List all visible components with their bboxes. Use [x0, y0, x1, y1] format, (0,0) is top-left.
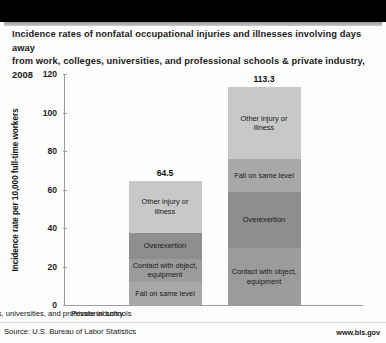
top-black-band [0, 0, 386, 22]
bar-segment-label: Other injury or illness [129, 197, 202, 216]
y-axis-tick-label: 100 [43, 108, 57, 118]
plot-area: 020406080100120Fall on same levelContact… [64, 74, 363, 305]
x-axis-category-label: Private industry [71, 309, 123, 318]
chart-screenshot: Incidence rates of nonfatal occupational… [0, 0, 386, 343]
bar-segment-label: Contact with object, equipment [228, 267, 301, 286]
bar-total-label: 64.5 [129, 168, 202, 178]
bar-segment-label: Overexertion [240, 215, 288, 224]
bar-segment-label: Other injury or illness [228, 114, 301, 133]
y-axis-tick [63, 190, 67, 191]
y-axis-tick [63, 267, 67, 268]
x-axis-line [64, 305, 363, 306]
stacked-bar[interactable]: Fall on same levelContact with object, e… [129, 181, 202, 305]
bar-segment[interactable]: Other injury or illness [228, 87, 301, 159]
bar-segment-label: Fall on same level [231, 171, 297, 180]
y-axis-tick-label: 120 [43, 69, 57, 79]
stacked-bar[interactable]: Contact with object, equipmentOverexerti… [228, 87, 301, 305]
bar-total-label: 113.3 [228, 74, 301, 84]
y-axis-tick [63, 113, 67, 114]
y-axis-tick-label: 60 [47, 185, 57, 195]
y-axis-tick [63, 151, 67, 152]
y-axis-tick-label: 20 [47, 262, 57, 272]
y-axis-tick [63, 74, 67, 75]
chart-title-line-1: Incidence rates of nonfatal occupational… [12, 28, 376, 55]
y-axis-tick [63, 305, 67, 306]
source-note: Source: U.S. Bureau of Labor Statistics [4, 327, 136, 336]
bar-segment[interactable]: Fall on same level [228, 159, 301, 192]
y-axis-tick [63, 228, 67, 229]
footer-divider [0, 322, 386, 323]
bar-segment-label: Fall on same level [132, 289, 198, 298]
y-axis-tick-label: 40 [47, 223, 57, 233]
y-axis-title-text: Incidence rate per 10,000 full-time work… [10, 108, 20, 271]
bar-segment[interactable]: Overexertion [129, 233, 202, 259]
bar-segment[interactable]: Overexertion [228, 192, 301, 248]
bar-segment[interactable]: Other injury or illness [129, 181, 202, 233]
bar-segment[interactable]: Contact with object, equipment [129, 259, 202, 282]
bar-segment-label: Overexertion [141, 241, 189, 250]
bar-segment[interactable]: Contact with object, equipment [228, 248, 301, 305]
bar-segment-label: Contact with object, equipment [129, 261, 202, 280]
source-url: www.bls.gov [336, 328, 380, 337]
bar-segment[interactable]: Fall on same level [129, 282, 202, 305]
y-axis-title: Incidence rate per 10,000 full-time work… [8, 74, 22, 305]
y-axis-tick-label: 80 [47, 146, 57, 156]
top-divider-rule [4, 22, 382, 26]
